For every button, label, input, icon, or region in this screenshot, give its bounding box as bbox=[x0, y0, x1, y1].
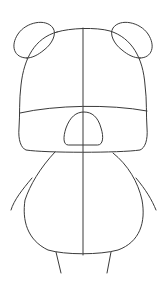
left-arm bbox=[11, 178, 32, 210]
right-ear bbox=[112, 22, 153, 58]
bear-sketch bbox=[0, 0, 166, 287]
right-arm bbox=[136, 178, 156, 210]
right-leg bbox=[107, 252, 111, 273]
left-ear bbox=[14, 22, 55, 58]
left-leg bbox=[56, 252, 61, 273]
body bbox=[24, 152, 143, 254]
